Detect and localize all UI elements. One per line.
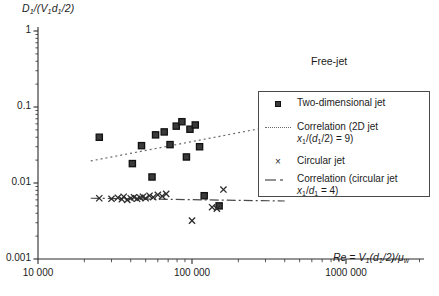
square-marker-icon (259, 96, 297, 111)
y-tick-label: 0.1 (0, 100, 31, 111)
data-point-square (96, 134, 102, 140)
y-axis-title: D1/(V1d1/2) (22, 2, 74, 14)
legend[interactable]: Two-dimensional jet Correlation (2D jet … (258, 91, 430, 197)
legend-label: Correlation (circular jet x1/d1 = 4) (297, 172, 398, 197)
correlation-lines-group (91, 124, 285, 201)
data-point-square (149, 174, 155, 180)
annotation-free-jet: Free-jet (311, 55, 347, 67)
data-point-square (179, 119, 185, 125)
y-tick-label: 0.001 (0, 252, 31, 263)
data-point-square (196, 144, 202, 150)
y-tick-label: 1 (0, 24, 31, 35)
data-point-square (167, 142, 173, 148)
data-point-square (138, 143, 144, 149)
x-tick-label: 1000 000 (296, 267, 396, 278)
data-point-cross (189, 218, 195, 224)
legend-item-correlation-2d-jet[interactable]: Correlation (2D jet x1/(d1/2) = 9) (259, 120, 429, 144)
cross-marker-icon: × (259, 154, 297, 169)
data-point-square (129, 160, 135, 166)
dotted-line-icon (259, 120, 297, 135)
y-tick-label: 0.01 (0, 176, 31, 187)
data-point-square (183, 154, 189, 160)
figure-container: D1/(V1d1/2) Free-jet Re = V1(d1/2)/μw 10… (0, 0, 439, 296)
data-point-square (161, 129, 167, 135)
legend-item-correlation-circular-jet[interactable]: Correlation (circular jet x1/d1 = 4) (259, 172, 429, 196)
data-point-square (201, 193, 207, 199)
dashdot-line-icon (259, 172, 297, 187)
figure-caption-partial (2, 288, 262, 296)
data-points-group (96, 119, 226, 224)
x-axis-title: Re = V1(d1/2)/μw (333, 251, 409, 263)
x-tick-label: 100 000 (142, 267, 242, 278)
data-point-square (192, 122, 198, 128)
legend-label: Correlation (2D jet x1/(d1/2) = 9) (297, 120, 378, 145)
legend-label: Two-dimensional jet (297, 96, 385, 109)
data-point-cross (209, 204, 215, 210)
x-tick-label: 10 000 (0, 267, 88, 278)
legend-label: Circular jet (297, 154, 345, 167)
data-point-square (152, 132, 158, 138)
data-point-cross (220, 186, 226, 192)
legend-item-two-dimensional-jet[interactable]: Two-dimensional jet (259, 96, 429, 120)
